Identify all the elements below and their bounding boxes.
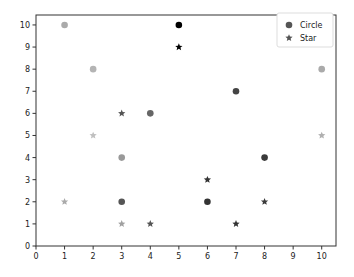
y-axis: 012345678910 <box>20 21 36 251</box>
plot-area <box>36 15 336 246</box>
x-tick-label: 4 <box>148 252 153 261</box>
y-tick-label: 10 <box>20 21 30 30</box>
x-axis: 012345678910 <box>33 246 326 261</box>
y-tick-label: 4 <box>25 154 30 163</box>
y-tick-label: 7 <box>25 87 30 96</box>
x-tick-label: 5 <box>176 252 181 261</box>
y-tick-label: 2 <box>25 198 30 207</box>
circle-point <box>176 22 183 29</box>
circle-point <box>118 198 125 205</box>
x-tick-label: 2 <box>91 252 96 261</box>
x-tick-label: 6 <box>205 252 210 261</box>
y-tick-label: 9 <box>25 43 30 52</box>
legend: CircleStar <box>277 13 333 47</box>
x-tick-label: 3 <box>119 252 124 261</box>
x-tick-label: 9 <box>291 252 296 261</box>
scatter-chart: 012345678910 012345678910 CircleStar <box>0 0 354 277</box>
x-tick-label: 0 <box>33 252 38 261</box>
circle-point <box>204 198 211 205</box>
x-tick-label: 1 <box>62 252 67 261</box>
circle-point <box>261 154 268 161</box>
circle-point <box>90 66 97 73</box>
axes-frame <box>36 15 336 246</box>
y-tick-label: 0 <box>25 242 30 251</box>
circle-point <box>318 66 325 73</box>
y-tick-label: 5 <box>25 131 30 140</box>
circle-point <box>61 22 68 29</box>
legend-label: Circle <box>300 21 323 30</box>
y-tick-label: 6 <box>25 109 30 118</box>
circle-point <box>233 88 240 95</box>
x-tick-label: 10 <box>317 252 327 261</box>
y-tick-label: 1 <box>25 220 30 229</box>
legend-circle-icon <box>286 22 293 29</box>
circle-point <box>147 110 154 117</box>
circle-point <box>118 154 125 161</box>
x-tick-label: 7 <box>233 252 238 261</box>
y-tick-label: 3 <box>25 176 30 185</box>
x-tick-label: 8 <box>262 252 267 261</box>
y-tick-label: 8 <box>25 65 30 74</box>
legend-label: Star <box>300 34 317 43</box>
